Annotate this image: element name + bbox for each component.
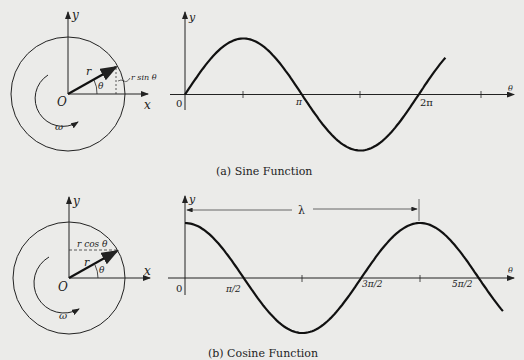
tick-label: 0 bbox=[176, 98, 182, 109]
origin-label: O bbox=[58, 280, 68, 294]
cosine-phasor-diagram: y x O r θ ω r cos θ bbox=[13, 194, 151, 334]
tick-label: π bbox=[295, 97, 303, 107]
x-label: x bbox=[144, 98, 151, 112]
plot-y-label: y bbox=[188, 11, 196, 24]
tick-label: 3π/2 bbox=[362, 279, 383, 289]
y-label: y bbox=[71, 8, 79, 22]
angle-arc bbox=[94, 80, 97, 94]
tick-label: 0 bbox=[176, 283, 182, 294]
figure: y x O r θ ω r sin θ y θ 0 π 2π (a) Sine … bbox=[0, 0, 524, 360]
cosine-plot: λ y θ 0 π/2 3π/2 5π/2 (b) Cosine Functio… bbox=[168, 193, 514, 360]
plot-x-label: θ bbox=[508, 266, 513, 275]
tick-label: π/2 bbox=[225, 284, 241, 294]
caption: (a) Sine Function bbox=[216, 165, 312, 178]
projection-label: r cos θ bbox=[77, 239, 108, 249]
angle-label: θ bbox=[98, 81, 104, 91]
origin-label: O bbox=[57, 95, 67, 109]
x-label: x bbox=[144, 264, 151, 278]
angle-label: θ bbox=[99, 265, 105, 275]
caption: (b) Cosine Function bbox=[208, 347, 318, 360]
radius-vector bbox=[68, 67, 116, 94]
projection-label: r sin θ bbox=[131, 73, 157, 82]
sine-plot: y θ 0 π 2π (a) Sine Function bbox=[170, 11, 514, 178]
omega-label: ω bbox=[59, 310, 67, 321]
omega-label: ω bbox=[55, 121, 63, 132]
radius-label: r bbox=[84, 256, 90, 269]
plot-x-label: θ bbox=[508, 84, 513, 93]
sine-phasor-diagram: y x O r θ ω r sin θ bbox=[11, 8, 157, 151]
radius-label: r bbox=[86, 65, 92, 78]
radius-vector bbox=[69, 251, 117, 278]
y-label: y bbox=[72, 194, 80, 208]
tick-label: 5π/2 bbox=[452, 279, 473, 289]
plot-y-label: y bbox=[188, 193, 196, 206]
wavelength-label: λ bbox=[298, 204, 305, 217]
tick-label: 2π bbox=[420, 97, 433, 108]
